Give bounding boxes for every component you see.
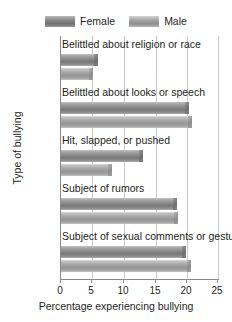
bar-group-belittled-looks-or-speech: Belittled about looks or speech bbox=[61, 86, 218, 134]
x-tick-10 bbox=[123, 279, 124, 283]
x-tick-label-5: 5 bbox=[88, 285, 94, 296]
legend-label-female: Female bbox=[80, 16, 115, 27]
x-tick-label-10: 10 bbox=[117, 285, 128, 296]
bar-group-hit-slapped-pushed: Hit, slapped, or pushed bbox=[61, 134, 218, 182]
bar-male-3 bbox=[61, 212, 178, 224]
bar-cap-icon bbox=[94, 54, 98, 66]
x-tick-5 bbox=[91, 279, 92, 283]
bar-male-4 bbox=[61, 260, 191, 272]
legend-entry-female: Female bbox=[45, 16, 115, 27]
bar-female-2 bbox=[61, 150, 143, 162]
category-label-3: Subject of rumors bbox=[62, 182, 144, 194]
bar-female-1 bbox=[61, 102, 189, 114]
bar-cap-icon bbox=[174, 212, 178, 224]
bar-cap-icon bbox=[187, 260, 191, 272]
bar-male-0 bbox=[61, 68, 93, 80]
bar-cap-icon bbox=[188, 116, 192, 128]
x-tick-20 bbox=[186, 279, 187, 283]
bar-group-belittled-religion-or-race: Belittled about religion or race bbox=[61, 38, 218, 86]
x-axis-title: Percentage experiencing bullying bbox=[0, 300, 232, 312]
category-label-4: Subject of sexual comments or gestures bbox=[62, 230, 232, 242]
category-label-2: Hit, slapped, or pushed bbox=[62, 134, 170, 146]
x-tick-0 bbox=[60, 279, 61, 283]
bar-cap-icon bbox=[139, 150, 143, 162]
x-tick-label-25: 25 bbox=[211, 285, 222, 296]
chart-legend: Female Male bbox=[0, 10, 232, 32]
x-tick-15 bbox=[155, 279, 156, 283]
y-axis-title: Type of bullying bbox=[11, 73, 23, 223]
x-tick-label-20: 20 bbox=[180, 285, 191, 296]
category-label-1: Belittled about looks or speech bbox=[62, 86, 205, 98]
bar-cap-icon bbox=[108, 164, 112, 176]
bar-female-3 bbox=[61, 198, 177, 210]
x-axis-line bbox=[60, 279, 219, 280]
gridline-25 bbox=[218, 36, 219, 279]
bar-male-2 bbox=[61, 164, 112, 176]
x-tick-label-15: 15 bbox=[149, 285, 160, 296]
legend-swatch-male-icon bbox=[129, 16, 159, 27]
legend-swatch-female-icon bbox=[45, 16, 75, 27]
legend-entry-male: Male bbox=[129, 16, 187, 27]
bar-cap-icon bbox=[182, 246, 186, 258]
bar-female-4 bbox=[61, 246, 186, 258]
bar-female-0 bbox=[61, 54, 98, 66]
bar-cap-icon bbox=[89, 68, 93, 80]
bar-chart: Female Male Belittled about religion or … bbox=[0, 0, 232, 322]
bar-male-1 bbox=[61, 116, 192, 128]
plot-area: Belittled about religion or race Belittl… bbox=[60, 36, 218, 279]
legend-label-male: Male bbox=[164, 16, 187, 27]
bar-group-sexual-comments-or-gestures: Subject of sexual comments or gestures bbox=[61, 230, 218, 278]
x-tick-label-0: 0 bbox=[57, 285, 63, 296]
bar-cap-icon bbox=[185, 102, 189, 114]
x-tick-25 bbox=[217, 279, 218, 283]
bar-cap-icon bbox=[173, 198, 177, 210]
bar-group-subject-of-rumors: Subject of rumors bbox=[61, 182, 218, 230]
category-label-0: Belittled about religion or race bbox=[62, 38, 201, 50]
